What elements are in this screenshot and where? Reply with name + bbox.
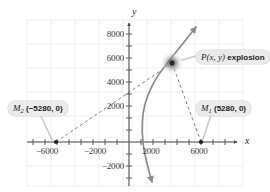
y-tick-label-neg2000: −2000 — [95, 161, 124, 171]
callout-m2-coords: (−5280, 0) — [26, 104, 63, 113]
microphone-1-point — [199, 140, 203, 144]
callout-leader-lines — [40, 56, 211, 140]
y-tick-label-4000: 4000 — [100, 77, 124, 87]
x-tick-label-neg2000: −2000 — [76, 146, 114, 156]
callout-microphone-2: M2 (−5280, 0) — [8, 101, 68, 116]
leader-line-m1 — [203, 115, 211, 139]
x-tick-label-neg6000: −6000 — [28, 146, 66, 156]
hyperbola-figure: 8000 6000 4000 2000 −2000 −6000 −2000 20… — [0, 0, 270, 192]
callout-m1-sub: 1 — [209, 107, 212, 114]
leader-line-p — [182, 56, 196, 60]
leader-line-m2 — [40, 114, 52, 140]
x-axis-name: x — [245, 135, 249, 146]
y-tick-label-6000: 6000 — [100, 53, 124, 63]
y-axis-name: y — [132, 6, 136, 17]
callout-m1-name: M — [201, 103, 209, 113]
x-tick-label-6000: 6000 — [182, 146, 216, 156]
callout-microphone-1: M1 (5280, 0) — [196, 101, 251, 116]
hyperbola-branch — [142, 27, 196, 182]
callout-m1-coords: (5280, 0) — [214, 104, 246, 113]
callout-m2-name: M — [13, 103, 21, 113]
callout-point-p: P(x, y) explosion — [196, 50, 270, 64]
x-axis — [27, 139, 237, 145]
callout-p-note: explosion — [227, 53, 264, 62]
explosion-burst-icon — [161, 52, 184, 75]
microphone-2-point — [54, 140, 58, 144]
y-axis — [126, 23, 132, 186]
plot-canvas — [0, 0, 270, 192]
callout-m2-sub: 2 — [21, 107, 24, 114]
y-tick-label-2000: 2000 — [100, 101, 124, 111]
y-tick-label-8000: 8000 — [100, 29, 124, 39]
callout-p-coords: (x, y) — [207, 52, 225, 62]
x-tick-label-2000: 2000 — [134, 146, 168, 156]
